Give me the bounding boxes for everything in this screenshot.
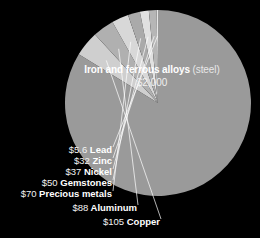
pie-slice-group <box>65 10 251 196</box>
chart-canvas: Iron and ferrous alloys (steel) $2,000 $… <box>0 0 260 238</box>
pie-chart <box>0 0 260 238</box>
